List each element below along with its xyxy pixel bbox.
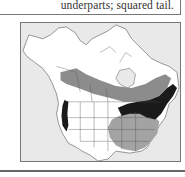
range-map xyxy=(20,22,181,162)
bottom-rule xyxy=(0,170,185,172)
description-box: underparts; squared tail. xyxy=(0,0,181,15)
range-map-graphic xyxy=(21,23,180,161)
description-text: underparts; squared tail. xyxy=(61,0,174,11)
